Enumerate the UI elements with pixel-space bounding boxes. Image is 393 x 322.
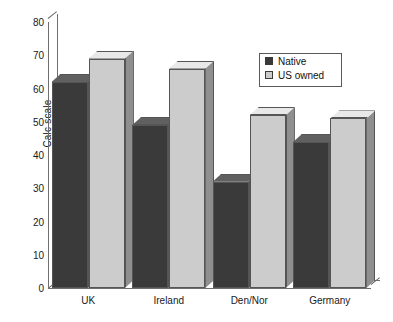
x-tick-uk: UK xyxy=(81,295,95,306)
legend-swatch-native xyxy=(265,57,273,65)
x-tick-ireland: Ireland xyxy=(153,295,184,306)
legend-label-native: Native xyxy=(278,56,306,67)
x-tick-den-nor: Den/Nor xyxy=(231,295,268,306)
legend-swatch-us-owned xyxy=(265,71,273,79)
legend-item-us-owned: US owned xyxy=(260,68,341,82)
x-tick-germany: Germany xyxy=(309,295,350,306)
x-axis-tick-labels: UKIrelandDen/NorGermany xyxy=(0,0,393,322)
legend-item-native: Native xyxy=(260,54,341,68)
chart-legend: Native US owned xyxy=(259,53,342,87)
legend-label-us-owned: US owned xyxy=(278,70,324,81)
bar-chart-figure: Calc scale 01020304050607080 UKIrelandDe… xyxy=(0,0,393,322)
